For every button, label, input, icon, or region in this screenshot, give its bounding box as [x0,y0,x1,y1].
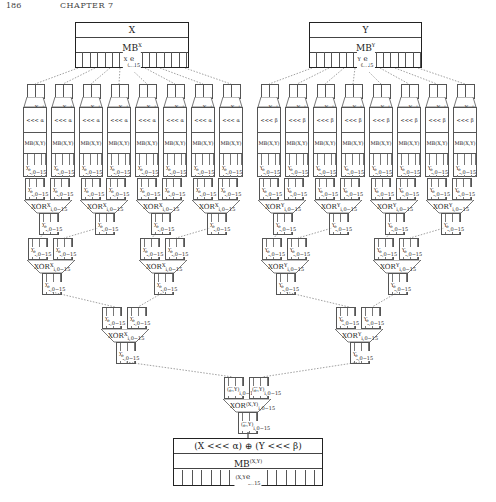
x-rotate-op: <<< α [52,108,74,133]
output-box: (X <<< α) ⊕ (Y <<< β) MB(X,Y) e(X,Y)0..1… [173,438,323,486]
y-register: eYi,0−15 [454,154,476,177]
output-bits: e(X,Y)0..15 [174,470,322,485]
xor-label: XORYi,0−15 [433,201,469,211]
xor-input-register: eYi,0−15 [315,178,335,200]
y-register: eYi,0−15 [426,154,448,177]
y-mb-xy: MB(X,Y) [370,133,392,154]
y-rotate-op: <<< β [398,108,420,133]
x-register: eXi,0−15 [220,154,242,177]
x-rotate-op: <<< α [80,108,102,133]
xor-label: XORXi,0−15 [146,261,182,271]
x-mb-xy: MB(X,Y) [164,133,186,154]
x-rotate-op: <<< α [164,108,186,133]
y-column-body: <<< β MB(X,Y) eYi,0−15 [313,107,337,177]
y-mb-xy: MB(X,Y) [454,133,476,154]
y-rotate-op: <<< β [286,108,308,133]
xor-input-register: eXi,0−15 [162,178,182,200]
x-column-body: <<< α MB(X,Y) eXi,0−15 [107,107,131,177]
xor-output-register: eYi,0−15 [329,213,349,235]
y-register: eYi,0−15 [314,154,336,177]
xor-input-register: eXi,0−15 [102,307,122,329]
xor-output-register: eYi,0−15 [276,273,296,295]
y-mb-xy: MB(X,Y) [286,133,308,154]
x-rotate-op: <<< α [108,108,130,133]
xor-input-register: eYi,0−15 [336,307,356,329]
input-x-bits: eX0..15 [76,52,188,67]
xor-input-register: eXi,0−15 [140,238,160,260]
y-register: eYi,0−15 [258,154,280,177]
y-register: eYi,0−15 [286,154,308,177]
y-register: eYi,0−15 [342,154,364,177]
input-x-title: X [76,23,188,38]
x-column-body: <<< α MB(X,Y) eXi,0−15 [51,107,75,177]
xor-label: XORXi,0−15 [143,201,179,211]
xor-label: XOR(X,Y)i,0−15 [230,400,275,410]
y-register: eYi,0−15 [398,154,420,177]
xor-input-register: eXi,0−15 [218,178,238,200]
x-register: eXi,0−15 [108,154,130,177]
xor-label: XORXi,0−15 [31,201,67,211]
input-x-box: X MBX eX0..15 [75,22,189,68]
x-mb-xy: MB(X,Y) [136,133,158,154]
xor-input-register: eYi,0−15 [284,178,304,200]
y-rotate-op: <<< β [342,108,364,133]
xor-output-register: eXi,0−15 [151,213,171,235]
x-register: eXi,0−15 [164,154,186,177]
xor-output-register: eXi,0−15 [39,213,59,235]
x-rotate-op: <<< α [192,108,214,133]
xor-output-register: eYi,0−15 [273,213,293,235]
y-column-body: <<< β MB(X,Y) eYi,0−15 [341,107,365,177]
xor-output-register: eXi,0−15 [207,213,227,235]
x-column-body: <<< α MB(X,Y) eXi,0−15 [163,107,187,177]
y-mb-xy: MB(X,Y) [258,133,280,154]
x-column-body: <<< α MB(X,Y) eXi,0−15 [135,107,159,177]
xor-label: XORYi,0−15 [321,201,357,211]
input-y-title: Y [310,23,421,38]
xor-input-register: eYi,0−15 [427,178,447,200]
y-mb-xy: MB(X,Y) [342,133,364,154]
y-column-body: <<< β MB(X,Y) eYi,0−15 [425,107,449,177]
x-mb-xy: MB(X,Y) [24,133,46,154]
xor-input-register: eYi,0−15 [287,238,307,260]
xor-input-register: eXi,0−15 [53,238,73,260]
xor-output-register: eYi,0−15 [385,213,405,235]
x-column-body: <<< α MB(X,Y) eXi,0−15 [79,107,103,177]
x-rotate-op: <<< α [220,108,242,133]
xor-input-register: eXi,0−15 [165,238,185,260]
xor-input-register: eXi,0−15 [193,178,213,200]
y-rotate-op: <<< β [454,108,476,133]
xor-label: XORXi,0−15 [108,330,144,340]
input-y-mb: MBY [310,38,421,53]
xor-input-register: e(X,Y)i,0−15 [249,377,269,399]
xor-label: XORXi,0−15 [34,261,70,271]
y-column-body: <<< β MB(X,Y) eYi,0−15 [285,107,309,177]
y-rotate-op: <<< β [314,108,336,133]
xor-input-register: eYi,0−15 [259,178,279,200]
y-rotate-op: <<< β [258,108,280,133]
x-column-body: <<< α MB(X,Y) eXi,0−15 [23,107,47,177]
xor-input-register: eXi,0−15 [106,178,126,200]
xor-input-register: eXi,0−15 [137,178,157,200]
xor-input-register: eYi,0−15 [452,178,472,200]
xor-label: XORXi,0−15 [199,201,235,211]
input-y-box: Y MBY eY0..15 [309,22,422,68]
xor-output-register: eXi,0−15 [95,213,115,235]
x-register: eXi,0−15 [80,154,102,177]
input-x-mb: MBX [76,38,188,53]
x-register: eXi,0−15 [24,154,46,177]
x-register: eXi,0−15 [52,154,74,177]
xor-input-register: eYi,0−15 [371,178,391,200]
y-column-body: <<< β MB(X,Y) eYi,0−15 [397,107,421,177]
xor-output-register: eYi,0−15 [441,213,461,235]
xor-input-register: eXi,0−15 [28,238,48,260]
x-mb-xy: MB(X,Y) [220,133,242,154]
xor-output-register: e(X,Y)i,0−15 [238,412,258,434]
xor-input-register: eYi,0−15 [262,238,282,260]
y-mb-xy: MB(X,Y) [426,133,448,154]
x-mb-xy: MB(X,Y) [80,133,102,154]
xor-output-register: eXi,0−15 [42,273,62,295]
y-rotate-op: <<< β [426,108,448,133]
output-title: (X <<< α) ⊕ (Y <<< β) [174,439,322,454]
y-mb-xy: MB(X,Y) [314,133,336,154]
y-column-body: <<< β MB(X,Y) eYi,0−15 [257,107,281,177]
